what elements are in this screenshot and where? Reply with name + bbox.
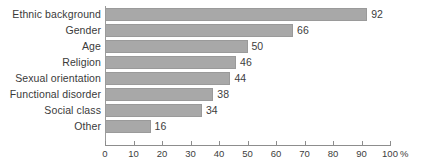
x-axis-tick bbox=[276, 141, 277, 146]
bar-row: Functional disorder38 bbox=[0, 88, 422, 104]
category-label: Sexual orientation bbox=[0, 72, 101, 85]
x-axis-tick-label: 40 bbox=[214, 148, 225, 159]
bar-row: Age50 bbox=[0, 40, 422, 56]
x-axis-tick bbox=[162, 141, 163, 146]
bar bbox=[105, 24, 293, 37]
category-label: Religion bbox=[0, 56, 101, 69]
x-axis-tick bbox=[248, 141, 249, 146]
bar-rows: Ethnic background92Gender66Age50Religion… bbox=[0, 8, 422, 136]
bar-value-label: 16 bbox=[155, 120, 167, 133]
x-axis-tick-label: 20 bbox=[157, 148, 168, 159]
bar-row: Other16 bbox=[0, 120, 422, 136]
bar-value-label: 50 bbox=[252, 40, 264, 53]
category-label: Social class bbox=[0, 104, 101, 117]
x-axis-tick bbox=[362, 141, 363, 146]
bar bbox=[105, 72, 230, 85]
x-axis-tick-label: 70 bbox=[299, 148, 310, 159]
x-axis-tick bbox=[134, 141, 135, 146]
bar bbox=[105, 56, 236, 69]
x-axis-tick bbox=[105, 141, 106, 146]
x-axis-tick-label: 10 bbox=[128, 148, 139, 159]
category-label: Functional disorder bbox=[0, 88, 101, 101]
category-label: Gender bbox=[0, 24, 101, 37]
bar-chart: Ethnic background92Gender66Age50Religion… bbox=[0, 0, 422, 164]
x-axis-unit-label: % bbox=[400, 148, 408, 159]
bar-value-label: 34 bbox=[206, 104, 218, 117]
y-axis-line bbox=[105, 6, 106, 145]
x-axis-tick bbox=[219, 141, 220, 146]
bar-value-label: 66 bbox=[297, 24, 309, 37]
bar-row: Gender66 bbox=[0, 24, 422, 40]
bar-row: Ethnic background92 bbox=[0, 8, 422, 24]
x-axis-tick-label: 90 bbox=[356, 148, 367, 159]
bar bbox=[105, 88, 213, 101]
bar-value-label: 44 bbox=[234, 72, 246, 85]
x-axis-tick-label: 0 bbox=[102, 148, 107, 159]
x-axis-tick-label: 80 bbox=[328, 148, 339, 159]
bar bbox=[105, 8, 367, 21]
bar bbox=[105, 40, 248, 53]
x-axis-tick bbox=[191, 141, 192, 146]
bar-value-label: 92 bbox=[371, 8, 383, 21]
category-label: Other bbox=[0, 120, 101, 133]
x-axis-tick-label: 50 bbox=[242, 148, 253, 159]
x-axis-tick bbox=[390, 141, 391, 146]
x-axis-tick bbox=[333, 141, 334, 146]
bar-value-label: 46 bbox=[240, 56, 252, 69]
category-label: Age bbox=[0, 40, 101, 53]
bar-value-label: 38 bbox=[217, 88, 229, 101]
x-axis-tick-label: 30 bbox=[185, 148, 196, 159]
category-label: Ethnic background bbox=[0, 8, 101, 21]
bar-row: Religion46 bbox=[0, 56, 422, 72]
x-axis-tick bbox=[305, 141, 306, 146]
bar bbox=[105, 120, 151, 133]
x-axis-tick-label: 100 bbox=[382, 148, 398, 159]
x-axis-tick-label: 60 bbox=[271, 148, 282, 159]
bar bbox=[105, 104, 202, 117]
bar-row: Sexual orientation44 bbox=[0, 72, 422, 88]
bar-row: Social class34 bbox=[0, 104, 422, 120]
